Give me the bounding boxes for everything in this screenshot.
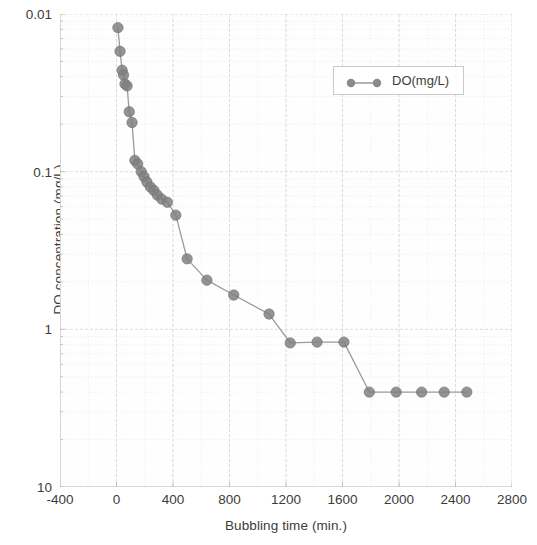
y-tick-label: 1: [6, 322, 58, 337]
data-point: [439, 387, 449, 397]
chart-figure: DO concentration (mg/L) 1010.10.01 -4000…: [0, 0, 537, 545]
data-point: [122, 81, 132, 91]
data-point: [416, 387, 426, 397]
legend-marker-icon: [344, 75, 384, 87]
x-tick-label: 2800: [477, 492, 537, 507]
data-point: [339, 337, 349, 347]
chart-legend: DO(mg/L): [333, 66, 464, 95]
data-point: [391, 387, 401, 397]
data-point: [229, 290, 239, 300]
data-point: [124, 107, 134, 117]
data-point: [162, 197, 172, 207]
y-tick-label: 0.1: [6, 164, 58, 179]
y-axis-tick-labels: 1010.10.01: [0, 14, 58, 487]
data-point: [312, 337, 322, 347]
x-axis-title: Bubbling time (min.): [60, 518, 512, 533]
data-point: [171, 210, 181, 220]
data-point: [462, 387, 472, 397]
data-point: [127, 117, 137, 127]
data-point: [113, 22, 123, 32]
data-point: [182, 254, 192, 264]
data-point: [115, 46, 125, 56]
x-axis-tick-labels: -400040080012001600200024002800: [0, 492, 537, 514]
data-point: [285, 338, 295, 348]
data-point: [364, 387, 374, 397]
legend-entry-label: DO(mg/L): [392, 73, 449, 88]
y-tick-label: 0.01: [6, 7, 58, 22]
data-point: [202, 275, 212, 285]
data-point: [264, 309, 274, 319]
